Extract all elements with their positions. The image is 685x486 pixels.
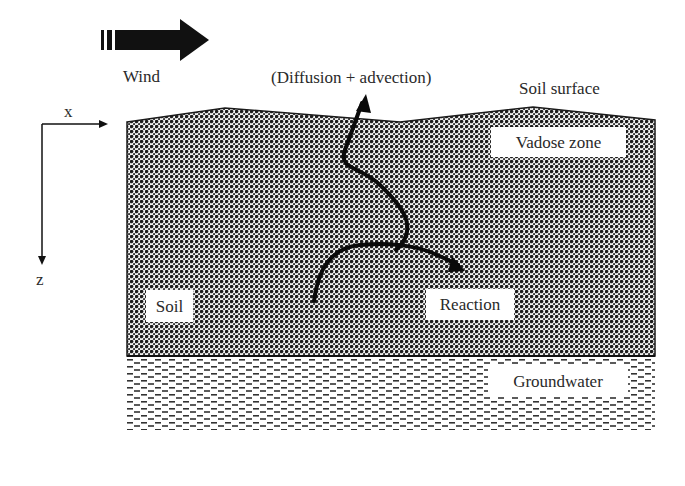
reaction-label: Reaction	[426, 289, 514, 320]
groundwater-label: Groundwater	[488, 366, 628, 396]
soil-label: Soil	[146, 290, 193, 322]
wind-arrow-icon	[101, 19, 209, 61]
soil-surface-label: Soil surface	[519, 80, 600, 97]
x-axis-label: x	[64, 103, 73, 120]
wind-label: Wind	[123, 68, 160, 85]
coordinate-axes	[38, 120, 108, 265]
vadose-zone-label: Vadose zone	[491, 127, 626, 157]
transport-arrowhead-up	[356, 94, 371, 113]
z-axis-label: z	[36, 271, 44, 288]
transport-label: (Diffusion + advection)	[271, 69, 431, 86]
